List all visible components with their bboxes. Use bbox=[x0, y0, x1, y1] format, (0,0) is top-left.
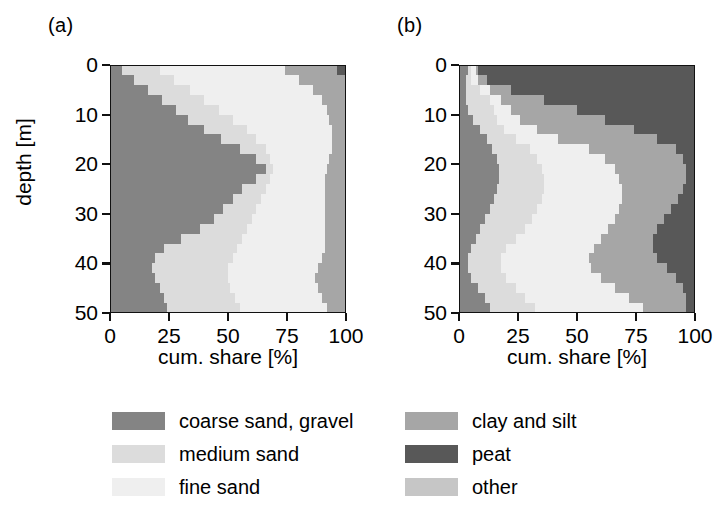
legend-item-coarse_sand_gravel[interactable]: coarse sand, gravel bbox=[112, 404, 372, 437]
y-tick-mark bbox=[451, 114, 459, 116]
legend-swatch-other bbox=[405, 478, 458, 496]
legend-label-other: other bbox=[472, 476, 518, 498]
y-tick-mark bbox=[451, 213, 459, 215]
y-tick-label: 0 bbox=[435, 52, 447, 78]
legend-label-clay_and_silt: clay and silt bbox=[472, 410, 577, 432]
legend-swatch-fine_sand bbox=[112, 478, 165, 496]
x-tick-mark bbox=[458, 313, 460, 321]
plot-area-b bbox=[459, 65, 695, 313]
x-tick-mark bbox=[109, 313, 111, 321]
legend-label-coarse_sand_gravel: coarse sand, gravel bbox=[179, 410, 354, 432]
y-tick-label: 10 bbox=[75, 102, 98, 128]
x-tick-mark bbox=[345, 313, 347, 321]
legend-item-other[interactable]: other bbox=[405, 470, 665, 503]
panel-a: (a) depth [m] 01020304050 0255075100 cum… bbox=[0, 0, 348, 395]
x-tick-mark bbox=[635, 313, 637, 321]
x-tick-mark bbox=[227, 313, 229, 321]
y-tick-label: 30 bbox=[424, 201, 447, 227]
legend-item-medium_sand[interactable]: medium sand bbox=[112, 437, 372, 470]
y-tick-mark bbox=[102, 163, 110, 165]
y-tick-mark bbox=[102, 64, 110, 66]
legend-column-right: clay and siltpeatother bbox=[405, 404, 665, 503]
y-tick-label: 0 bbox=[86, 52, 98, 78]
legend-swatch-medium_sand bbox=[112, 445, 165, 463]
y-tick-label: 20 bbox=[424, 151, 447, 177]
y-tick-label: 50 bbox=[424, 300, 447, 326]
y-axis-ticks-a: 01020304050 bbox=[0, 65, 110, 313]
y-tick-label: 30 bbox=[75, 201, 98, 227]
y-tick-label: 50 bbox=[75, 300, 98, 326]
legend-item-peat[interactable]: peat bbox=[405, 437, 665, 470]
y-tick-label: 10 bbox=[424, 102, 447, 128]
y-axis-ticks-b: 01020304050 bbox=[349, 65, 459, 313]
panel-b-label: (b) bbox=[397, 14, 422, 37]
y-tick-label: 40 bbox=[75, 250, 98, 276]
legend-label-fine_sand: fine sand bbox=[179, 476, 260, 498]
legend-swatch-clay_and_silt bbox=[405, 412, 458, 430]
legend-column-left: coarse sand, gravelmedium sandfine sand bbox=[112, 404, 372, 503]
panel-a-label: (a) bbox=[48, 14, 73, 37]
y-tick-mark bbox=[102, 262, 110, 264]
plot-area-a bbox=[110, 65, 346, 313]
x-tick-mark bbox=[517, 313, 519, 321]
legend: coarse sand, gravelmedium sandfine sand … bbox=[112, 404, 632, 510]
legend-label-medium_sand: medium sand bbox=[179, 443, 299, 465]
plot-frame-a bbox=[110, 65, 346, 313]
y-tick-label: 40 bbox=[424, 250, 447, 276]
y-tick-label: 20 bbox=[75, 151, 98, 177]
y-tick-mark bbox=[102, 114, 110, 116]
x-tick-mark bbox=[168, 313, 170, 321]
x-tick-mark bbox=[576, 313, 578, 321]
plot-frame-b bbox=[459, 65, 695, 313]
x-tick-mark bbox=[694, 313, 696, 321]
x-tick-mark bbox=[286, 313, 288, 321]
legend-swatch-coarse_sand_gravel bbox=[112, 412, 165, 430]
legend-swatch-peat bbox=[405, 445, 458, 463]
y-tick-mark bbox=[451, 64, 459, 66]
x-axis-title-a: cum. share [%] bbox=[110, 345, 346, 369]
y-tick-mark bbox=[102, 213, 110, 215]
panel-b: (b) 01020304050 0255075100 cum. share [%… bbox=[349, 0, 697, 395]
legend-item-fine_sand[interactable]: fine sand bbox=[112, 470, 372, 503]
legend-item-clay_and_silt[interactable]: clay and silt bbox=[405, 404, 665, 437]
legend-label-peat: peat bbox=[472, 443, 511, 465]
y-tick-mark bbox=[451, 262, 459, 264]
y-tick-mark bbox=[451, 163, 459, 165]
x-axis-title-b: cum. share [%] bbox=[459, 345, 695, 369]
